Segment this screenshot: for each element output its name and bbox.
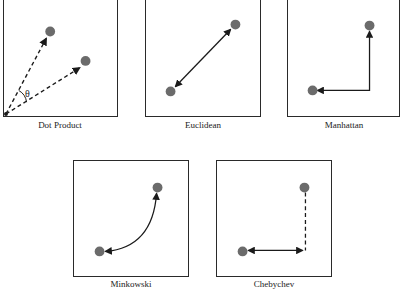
minkowski-diagram xyxy=(74,161,188,276)
manhattan-label: Manhattan xyxy=(279,120,401,130)
chebychev-diagram xyxy=(217,161,331,276)
dot-product-panel: θ xyxy=(3,0,118,117)
origin-point xyxy=(4,112,8,116)
point-b xyxy=(166,87,176,97)
vector-b-arrow xyxy=(6,68,80,114)
minkowski-label: Minkowski xyxy=(66,279,196,289)
point-b xyxy=(238,247,248,257)
manhattan-panel xyxy=(287,0,400,117)
euclidean-distance-line xyxy=(175,30,230,87)
point-a xyxy=(300,183,310,193)
chebychev-panel xyxy=(216,160,332,277)
chebychev-label: Chebychev xyxy=(209,279,339,289)
minkowski-curve xyxy=(105,193,156,251)
minkowski-panel xyxy=(73,160,189,277)
manhattan-diagram xyxy=(288,0,399,116)
point-b xyxy=(95,247,105,257)
euclidean-diagram xyxy=(146,0,260,116)
euclidean-panel xyxy=(145,0,261,117)
point-a xyxy=(231,20,241,30)
point-a xyxy=(45,27,55,37)
theta-annotation: θ xyxy=(25,88,30,99)
vector-a-arrow xyxy=(6,38,46,114)
point-b xyxy=(81,56,91,66)
euclidean-label: Euclidean xyxy=(138,120,268,130)
point-b xyxy=(308,86,318,96)
point-a xyxy=(365,21,375,31)
dot-product-label: Dot Product xyxy=(0,120,125,130)
manhattan-path xyxy=(317,31,369,90)
point-a xyxy=(153,183,163,193)
dot-product-diagram xyxy=(4,0,117,116)
